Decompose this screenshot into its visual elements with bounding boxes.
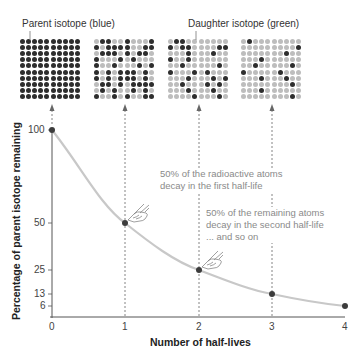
annotation-second-half-life: 50% of the remaining atoms decay in the … — [206, 207, 324, 243]
y-tick-label: 100 — [28, 124, 45, 135]
x-tick-label: 1 — [122, 321, 128, 332]
y-tick-label: 6 — [40, 300, 46, 311]
y-tick-label: 50 — [34, 217, 45, 228]
y-tick-marks — [48, 130, 52, 306]
annotation-line: decay in the first half-life — [160, 180, 283, 192]
y-tick-label: 13 — [34, 288, 45, 299]
y-axis-title: Percentage of parent isotope remaining — [10, 122, 22, 320]
annotation-first-half-life: 50% of the radioactive atoms decay in th… — [160, 168, 283, 192]
x-tick-label: 4 — [342, 321, 348, 332]
pointing-hand-icon — [128, 204, 149, 222]
x-tick-label: 0 — [49, 321, 55, 332]
x-tick-label: 3 — [269, 321, 275, 332]
arrow-up-icons — [50, 104, 275, 111]
x-tick-label: 2 — [196, 321, 202, 332]
annotation-line: ... and so on — [206, 231, 324, 243]
annotation-line: 50% of the radioactive atoms — [160, 168, 283, 180]
y-tick-label: 25 — [34, 264, 45, 275]
pointing-hand-icon — [202, 251, 223, 269]
x-axis-title: Number of half-lives — [150, 336, 251, 348]
annotation-line: decay in the second half-life — [206, 219, 324, 231]
annotation-line: 50% of the remaining atoms — [206, 207, 324, 219]
